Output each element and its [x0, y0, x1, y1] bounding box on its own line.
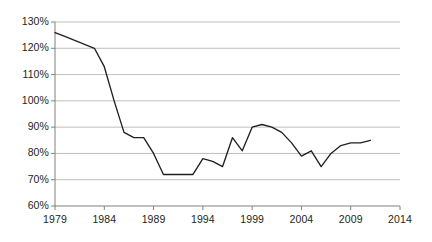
x-axis-tick-label: 1979: [30, 213, 80, 225]
x-axis-tick-label: 1999: [227, 213, 277, 225]
x-axis-tick-label: 2014: [375, 213, 425, 225]
y-axis-tick-label: 80%: [5, 146, 49, 158]
x-axis-tick-label: 2009: [326, 213, 376, 225]
y-axis-tick-label: 130%: [5, 15, 49, 27]
gridlines: [55, 22, 400, 180]
y-axis-tick-label: 110%: [5, 68, 49, 80]
y-axis-tick-label: 60%: [5, 199, 49, 211]
y-axis-tick-label: 90%: [5, 120, 49, 132]
y-axis-tick-label: 100%: [5, 94, 49, 106]
axis-ticks: [51, 22, 400, 210]
x-axis-tick-label: 1984: [79, 213, 129, 225]
line-chart: 130%120%110%100%90%80%70%60% 19791984198…: [0, 0, 432, 242]
chart-plot-area: [0, 0, 432, 242]
x-axis-tick-label: 1994: [178, 213, 228, 225]
y-axis-tick-label: 120%: [5, 41, 49, 53]
axis-lines: [55, 22, 400, 206]
x-axis-tick-label: 1989: [129, 213, 179, 225]
y-axis-tick-label: 70%: [5, 173, 49, 185]
x-axis-tick-label: 2004: [276, 213, 326, 225]
